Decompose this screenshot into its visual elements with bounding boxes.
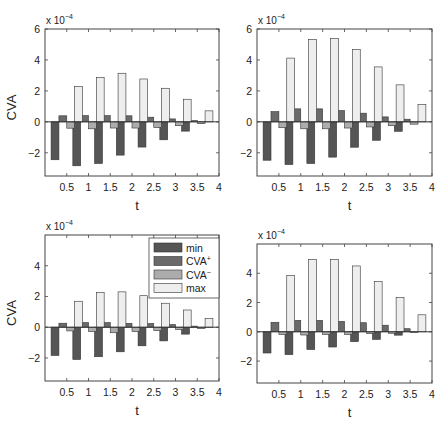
y-tick-label: 4 <box>246 54 252 66</box>
x-axis-label: t <box>348 198 352 213</box>
bar-cva-minus <box>388 122 396 126</box>
bar-max <box>205 319 213 328</box>
legend-label: max <box>186 282 207 294</box>
bar-max <box>96 293 104 328</box>
bar-cva-minus <box>366 122 374 127</box>
y-tick-label: 4 <box>34 54 40 66</box>
x-tick-label: 1 <box>298 388 304 400</box>
bar-cva-minus <box>67 122 75 128</box>
axis-multiplier-label: x 10−4 <box>258 228 285 241</box>
bar-max <box>118 73 126 122</box>
bar-cva-minus <box>345 122 353 128</box>
legend-label: min <box>186 242 203 254</box>
y-tick-label: 0 <box>34 321 40 333</box>
bar-max <box>418 105 426 122</box>
x-tick-label: 1.5 <box>315 181 330 193</box>
y-tick-label: 6 <box>34 23 40 35</box>
x-tick-label: 0.5 <box>59 181 74 193</box>
x-tick-label: 4 <box>216 181 222 193</box>
x-tick-label: 1.5 <box>103 181 118 193</box>
bar-cva-minus <box>89 122 97 129</box>
bar-max <box>331 260 339 332</box>
x-tick-label: 2.5 <box>146 181 161 193</box>
x-axis-label: t <box>135 198 139 213</box>
x-tick-label: 4 <box>429 181 435 193</box>
y-axis-label: CVA <box>4 94 19 120</box>
bar-max <box>374 67 382 122</box>
y-tick-label: 4 <box>34 260 40 272</box>
bar-cva-minus <box>323 122 331 129</box>
bar-max <box>75 87 83 122</box>
bar-max <box>162 303 170 327</box>
x-tick-label: 0.5 <box>272 181 287 193</box>
bar-min <box>51 327 59 355</box>
x-tick-label: 3.5 <box>403 181 418 193</box>
chart-panel-bottom-left: 0.511.522.533.54420−2x 10−4tCVAminCVA+CV… <box>4 219 222 418</box>
x-tick-label: 3.5 <box>190 181 205 193</box>
bar-cva-minus <box>132 122 140 128</box>
axis-multiplier-label: x 10−4 <box>46 219 73 232</box>
bar-max <box>183 310 191 327</box>
cva-figure: 0.511.522.533.546420−2x 10−4tCVA0.511.52… <box>0 0 446 426</box>
x-tick-label: 1 <box>86 181 92 193</box>
x-tick-label: 4 <box>429 388 435 400</box>
x-tick-label: 0.5 <box>59 386 74 398</box>
axis-multiplier-label: x 10−4 <box>258 13 285 26</box>
x-tick-label: 2.5 <box>359 388 374 400</box>
x-tick-label: 3 <box>385 181 391 193</box>
bar-max <box>287 275 295 331</box>
x-tick-label: 2.5 <box>146 386 161 398</box>
bar-max <box>162 88 170 122</box>
y-tick-label: 2 <box>34 290 40 302</box>
bar-min <box>263 332 271 353</box>
x-tick-label: 1 <box>86 386 92 398</box>
bar-min <box>73 327 81 359</box>
plot-area <box>45 29 219 176</box>
x-tick-label: 0.5 <box>272 388 287 400</box>
chart-panel-bottom-right: 0.511.522.533.54420−2x 10−4t <box>240 228 435 420</box>
bar-max <box>352 266 360 332</box>
x-tick-label: 1 <box>298 181 304 193</box>
bar-min <box>263 122 271 160</box>
bar-cva-minus <box>279 122 287 128</box>
legend-swatch-2 <box>154 270 182 279</box>
x-axis-label: t <box>348 405 352 420</box>
y-tick-label: 0 <box>34 116 40 128</box>
chart-panel-top-right: 0.511.522.533.546420−2x 10−4t <box>240 13 435 213</box>
legend: minCVA+CVA−max <box>149 238 219 298</box>
bar-max <box>418 315 426 332</box>
y-tick-label: 2 <box>34 85 40 97</box>
y-axis-label: CVA <box>4 300 19 326</box>
bar-max <box>205 111 213 122</box>
bar-max <box>396 85 404 122</box>
y-tick-label: 6 <box>246 23 252 35</box>
legend-swatch-0 <box>154 243 182 252</box>
legend-swatch-3 <box>154 284 182 293</box>
bar-min <box>285 122 293 165</box>
bar-max <box>309 260 317 332</box>
chart-panel-top-left: 0.511.522.533.546420−2x 10−4tCVA <box>4 13 222 213</box>
x-tick-label: 2 <box>129 386 135 398</box>
bar-max <box>396 298 404 332</box>
y-tick-label: 4 <box>246 267 252 279</box>
bar-max <box>140 296 148 328</box>
bar-cva-plus <box>271 322 279 332</box>
x-tick-label: 2 <box>129 181 135 193</box>
bar-max <box>140 79 148 122</box>
y-tick-label: 0 <box>246 326 252 338</box>
bar-max <box>352 49 360 121</box>
axis-multiplier-label: x 10−4 <box>46 13 73 26</box>
plot-area <box>257 29 432 176</box>
bar-min <box>51 122 59 160</box>
x-tick-label: 4 <box>216 386 222 398</box>
x-tick-label: 3 <box>173 386 179 398</box>
y-tick-label: 2 <box>246 85 252 97</box>
bar-max <box>331 38 339 121</box>
bar-cva-minus <box>110 122 118 128</box>
bar-max <box>374 281 382 331</box>
bar-cva-minus <box>89 327 97 331</box>
bar-min <box>285 332 293 355</box>
x-tick-label: 3.5 <box>403 388 418 400</box>
y-tick-label: 2 <box>246 297 252 309</box>
bar-max <box>75 301 83 327</box>
